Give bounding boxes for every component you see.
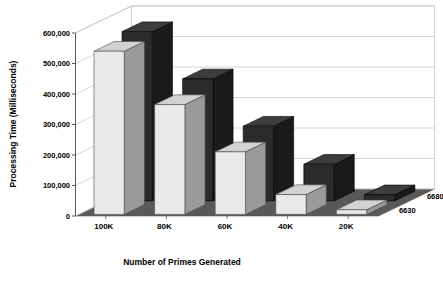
bar-side-face — [246, 142, 266, 214]
svg-text:100,000: 100,000 — [43, 181, 70, 190]
svg-text:600,000: 600,000 — [43, 29, 70, 38]
svg-text:20K: 20K — [339, 222, 354, 231]
svg-text:200,000: 200,000 — [43, 151, 70, 160]
svg-text:Number of Primes Generated: Number of Primes Generated — [123, 257, 241, 267]
svg-text:500,000: 500,000 — [43, 59, 70, 68]
svg-text:40K: 40K — [278, 222, 293, 231]
svg-text:Processing Time (Milliseconds): Processing Time (Milliseconds) — [8, 60, 18, 187]
chart-container: 600,000500,000400,000300,000200,000100,0… — [0, 0, 443, 285]
bar-chart-3d: 600,000500,000400,000300,000200,000100,0… — [0, 0, 443, 285]
bar-side-face — [185, 95, 205, 215]
svg-text:6630: 6630 — [399, 206, 416, 215]
svg-text:0: 0 — [66, 212, 70, 221]
bar-front-face — [276, 195, 306, 215]
bar-side-face — [124, 41, 144, 214]
bar-front-face — [94, 51, 124, 214]
svg-text:60K: 60K — [218, 222, 233, 231]
bar-front-face — [155, 105, 185, 215]
svg-text:80K: 80K — [157, 222, 172, 231]
svg-text:300,000: 300,000 — [43, 120, 70, 129]
svg-text:100K: 100K — [94, 222, 113, 231]
svg-text:400,000: 400,000 — [43, 90, 70, 99]
bar-front-face — [215, 152, 245, 215]
svg-text:6680: 6680 — [427, 192, 443, 201]
bar-front-face — [336, 210, 366, 215]
